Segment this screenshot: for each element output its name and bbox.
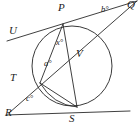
figure-canvas	[0, 0, 138, 129]
angle-label-c: c°	[26, 94, 33, 103]
point-label-s: S	[69, 113, 75, 124]
angle-label-x: x°	[56, 38, 63, 47]
point-label-v: V	[76, 48, 83, 59]
geometry-figure: P Q U V T S R x° a° b° c°	[0, 0, 138, 129]
tangent-line-r-s	[6, 111, 130, 115]
chord-p-s	[63, 24, 77, 107]
point-label-u: U	[9, 25, 17, 36]
point-label-r: R	[5, 107, 12, 118]
angle-label-a: a°	[44, 59, 52, 68]
angle-label-b: b°	[101, 5, 109, 14]
point-label-t: T	[10, 72, 16, 83]
chord-p-t	[40, 24, 63, 83]
point-label-q: Q	[127, 0, 135, 10]
point-label-p: P	[58, 2, 65, 13]
tangent-line-u-q	[7, 1, 137, 41]
